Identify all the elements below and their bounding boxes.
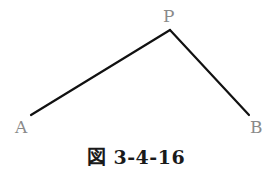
point-label-p: P xyxy=(163,6,174,26)
figure-caption: 図 3-4-16 xyxy=(0,142,272,169)
point-label-b: B xyxy=(250,117,263,137)
figure: P A B 図 3-4-16 xyxy=(0,0,272,171)
segment-pb xyxy=(170,30,249,115)
point-label-a: A xyxy=(14,117,28,137)
segment-ap xyxy=(31,30,170,115)
